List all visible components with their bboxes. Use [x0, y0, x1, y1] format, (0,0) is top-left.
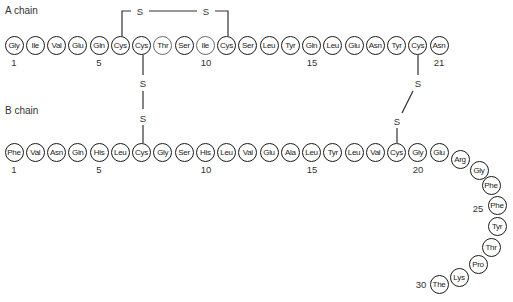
- a-residue-14: Tyr: [281, 36, 300, 55]
- a-residue-12: Ser: [238, 36, 257, 55]
- a-residue-16: Leu: [323, 36, 342, 55]
- a-residue-13: Leu: [260, 36, 279, 55]
- b-residue-7: Cys: [132, 143, 151, 162]
- b-residue-5: His: [90, 143, 109, 162]
- b-position-10: 10: [201, 164, 212, 175]
- sulfur-a6: S: [137, 6, 143, 17]
- a-residue-5: Gln: [90, 36, 109, 55]
- b-residue-2: Val: [26, 143, 45, 162]
- a-residue-15: Gln: [302, 36, 321, 55]
- b-residue-4: Gln: [68, 143, 87, 162]
- a-residue-3: Val: [47, 36, 66, 55]
- a-position-1: 1: [11, 57, 16, 68]
- b-position-25: 25: [473, 203, 484, 214]
- b-residue-26: Tyr: [488, 217, 507, 236]
- a-residue-10: Ile: [196, 36, 215, 55]
- a-residue-1: Gly: [5, 36, 24, 55]
- a-residue-8: Thr: [153, 36, 172, 55]
- b-residue-6: Leu: [111, 143, 130, 162]
- a-position-5: 5: [96, 57, 101, 68]
- b-residue-21: Glu: [430, 143, 449, 162]
- b-residue-3: Asn: [47, 143, 66, 162]
- a-residue-7: Cys: [132, 36, 151, 55]
- b-residue-20: Gly: [408, 143, 427, 162]
- b-residue-24: Phe: [482, 176, 501, 195]
- sulfur-a11: S: [203, 6, 209, 17]
- b-residue-14: Ala: [281, 143, 300, 162]
- b-residue-30: The: [430, 275, 449, 294]
- a-residue-21: Asn: [430, 36, 449, 55]
- b-residue-16: Tyr: [323, 143, 342, 162]
- a-residue-18: Asn: [366, 36, 385, 55]
- a-position-21: 21: [434, 57, 445, 68]
- b-residue-15: Leu: [302, 143, 321, 162]
- b-position-30: 30: [416, 279, 427, 290]
- b-residue-17: Leu: [345, 143, 364, 162]
- b-residue-10: His: [196, 143, 215, 162]
- b-residue-28: Pro: [469, 255, 488, 274]
- b-position-15: 15: [307, 164, 318, 175]
- b-residue-9: Ser: [175, 143, 194, 162]
- sulfur-a7: S: [140, 78, 146, 89]
- b-residue-22: Arg: [451, 150, 470, 169]
- b-residue-13: Glu: [260, 143, 279, 162]
- a-residue-9: Ser: [175, 36, 194, 55]
- a-residue-17: Glu: [345, 36, 364, 55]
- b-position-5: 5: [96, 164, 101, 175]
- b-position-1: 1: [11, 164, 16, 175]
- b-residue-1: Phe: [5, 143, 24, 162]
- sulfur-b19: S: [394, 116, 400, 127]
- b-position-20: 20: [413, 164, 424, 175]
- b-residue-19: Cys: [387, 143, 406, 162]
- sulfur-a20: S: [415, 78, 421, 89]
- b-residue-29: Lys: [450, 268, 469, 287]
- b-residue-11: Leu: [217, 143, 236, 162]
- a-residue-6: Cys: [111, 36, 130, 55]
- a-residue-4: Glu: [68, 36, 87, 55]
- a-residue-2: Ile: [26, 36, 45, 55]
- a-position-10: 10: [201, 57, 212, 68]
- b-residue-8: Gly: [153, 143, 172, 162]
- sulfur-b7: S: [140, 113, 146, 124]
- a-residue-20: Cys: [408, 36, 427, 55]
- b-residue-12: Val: [238, 143, 257, 162]
- b-residue-18: Val: [366, 143, 385, 162]
- a-position-15: 15: [307, 57, 318, 68]
- a-residue-19: Tyr: [387, 36, 406, 55]
- b-residue-27: Thr: [482, 238, 501, 257]
- b-residue-25: Phe: [488, 196, 507, 215]
- a-residue-11: Cys: [217, 36, 236, 55]
